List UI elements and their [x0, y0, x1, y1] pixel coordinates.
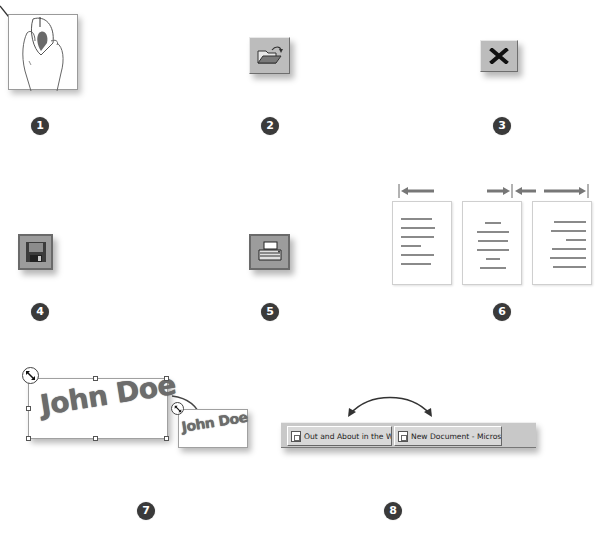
step-badge-3: 3: [493, 117, 511, 135]
open-button[interactable]: [249, 37, 290, 74]
web-page-icon: [291, 431, 301, 442]
wordart-small[interactable]: John Doe: [178, 409, 248, 448]
resize-handle[interactable]: [26, 406, 31, 411]
mouse-click-icon: [9, 15, 79, 91]
taskbar-button-out-and-about[interactable]: Out and About in the Wo...: [287, 426, 392, 446]
resize-handle-icon[interactable]: [171, 402, 184, 415]
print-button[interactable]: [249, 234, 290, 270]
close-button[interactable]: [480, 40, 518, 72]
resize-handle[interactable]: [164, 376, 169, 381]
step-badge-6: 6: [493, 303, 511, 321]
wordart-small-text: John Doe: [180, 409, 248, 435]
resize-handle-icon[interactable]: [22, 367, 39, 384]
step-badge-1: 1: [31, 117, 49, 135]
taskbar-button-label: Out and About in the Wo...: [304, 432, 392, 441]
step-badge-7: 7: [137, 502, 155, 520]
resize-handle[interactable]: [93, 436, 98, 441]
page-left-aligned: [392, 201, 452, 285]
page-right-aligned: [532, 201, 592, 285]
alignment-arrows-icon: [390, 182, 600, 200]
taskbar-button-new-document[interactable]: New Document - Microso...: [394, 426, 502, 446]
close-x-icon: [489, 48, 509, 64]
step-badge-2: 2: [261, 117, 279, 135]
taskbar-button-label: New Document - Microso...: [411, 432, 502, 441]
resize-handle[interactable]: [93, 376, 98, 381]
open-folder-icon: [256, 45, 284, 67]
word-document-icon: [398, 431, 408, 442]
step-badge-4: 4: [31, 303, 49, 321]
mouse-click-illustration: [8, 14, 78, 90]
floppy-save-icon: [25, 241, 47, 263]
taskbar: Out and About in the Wo... New Document …: [281, 422, 536, 448]
printer-icon: [256, 241, 284, 263]
resize-handle[interactable]: [164, 436, 169, 441]
page-center-aligned: [462, 201, 522, 285]
wordart-large-text: John Doe: [38, 368, 178, 422]
step-badge-8: 8: [384, 502, 402, 520]
wordart-large[interactable]: John Doe: [28, 378, 168, 439]
step-badge-5: 5: [261, 303, 279, 321]
resize-handle[interactable]: [26, 436, 31, 441]
double-arrow-icon: [340, 390, 440, 420]
save-button[interactable]: [18, 234, 53, 270]
